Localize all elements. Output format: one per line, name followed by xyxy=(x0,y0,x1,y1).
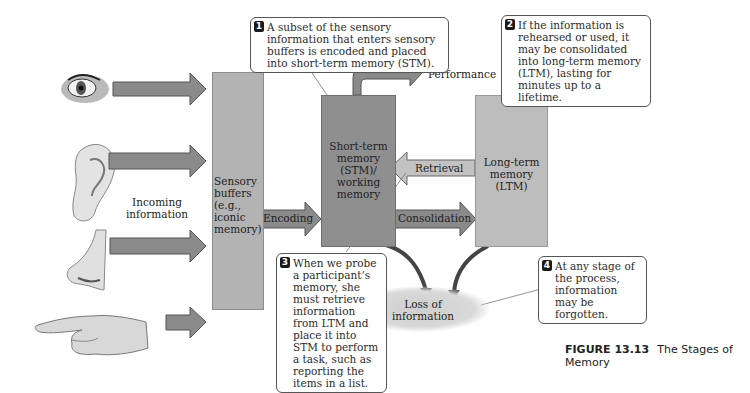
long-term-memory-label: Long-term memory (LTM) xyxy=(476,156,547,192)
eye-icon xyxy=(61,75,109,103)
callout-1-text: A subset of the sensory information that… xyxy=(267,21,436,69)
sensory-line-4: iconic xyxy=(214,211,264,223)
loss-of-information-label: Loss of information xyxy=(378,298,468,322)
encoding-label: Encoding xyxy=(263,212,307,224)
loss-line-2: information xyxy=(378,310,468,322)
callout-1: 1 A subset of the sensory information th… xyxy=(250,17,449,73)
callout-number-4: 4 xyxy=(542,260,552,271)
consolidation-label: Consolidation xyxy=(398,212,468,224)
stm-line-1: Short-term xyxy=(322,140,395,152)
callout-number-3: 3 xyxy=(280,257,290,268)
ltm-line-2: memory xyxy=(476,168,547,180)
retrieval-label: Retrieval xyxy=(415,162,470,174)
sensory-line-2: buffers xyxy=(214,187,264,199)
callout-number-1: 1 xyxy=(254,21,264,32)
callout-2-text: If the information is rehearsed or used,… xyxy=(518,19,641,103)
sensory-buffers-label: Sensory buffers (e.g., iconic memory) xyxy=(214,175,264,235)
sensory-line-1: Sensory xyxy=(214,175,264,187)
callout-4-text: At any stage of the process, information… xyxy=(555,260,635,320)
ltm-line-1: Long-term xyxy=(476,156,547,168)
figure-caption: FIGURE 13.13The Stages of Memory xyxy=(565,343,750,369)
pointing-hand-icon xyxy=(35,315,148,354)
ltm-line-3: (LTM) xyxy=(476,180,547,192)
callout-3: 3 When we probe a participant’s memory, … xyxy=(276,253,387,393)
callout-number-2: 2 xyxy=(505,19,515,30)
figure-number: FIGURE 13.13 xyxy=(565,343,649,356)
short-term-memory-label: Short-term memory (STM)/ working memory xyxy=(322,140,395,200)
callout-4: 4 At any stage of the process, informati… xyxy=(538,256,647,324)
stm-line-5: memory xyxy=(322,188,395,200)
sensory-line-5: memory) xyxy=(214,223,264,235)
stm-line-3: (STM)/ xyxy=(322,164,395,176)
sensory-line-3: (e.g., xyxy=(214,199,264,211)
nose-icon xyxy=(67,230,106,290)
stm-line-4: working xyxy=(322,176,395,188)
callout-3-text: When we probe a participant’s memory, sh… xyxy=(293,257,378,389)
incoming-information-label: Incoming information xyxy=(124,196,190,220)
loss-arrows xyxy=(386,245,488,292)
loss-line-1: Loss of xyxy=(378,298,468,310)
stm-line-2: memory xyxy=(322,152,395,164)
ear-icon xyxy=(73,144,115,221)
callout-2: 2 If the information is rehearsed or use… xyxy=(501,15,651,107)
